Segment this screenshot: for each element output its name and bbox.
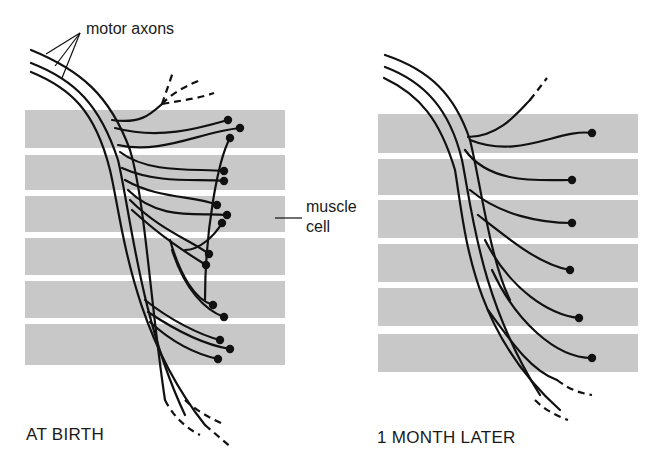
synapse-terminal (220, 167, 228, 175)
synapse-terminal (214, 355, 222, 363)
synapse-terminal (218, 219, 226, 227)
axon-continuation-dashed (162, 93, 214, 104)
pointer-line (55, 33, 80, 66)
axon-continuation-dashed (165, 400, 200, 435)
label-cell: cell (306, 218, 330, 236)
label-muscle: muscle (306, 198, 357, 216)
label-motor-axons: motor axons (86, 20, 174, 38)
muscle-cell-band (378, 334, 638, 372)
neuromuscular-diagram (0, 0, 664, 474)
axon-continuation-dashed (205, 425, 232, 448)
muscle-cell-band (25, 238, 285, 275)
synapse-terminal (223, 211, 231, 219)
muscle-cell-band (378, 200, 638, 238)
synapse-terminal (220, 177, 228, 185)
pointer-line (46, 33, 80, 54)
synapse-terminal (588, 354, 596, 362)
muscle-cell-band (25, 110, 285, 148)
caption-at-birth: AT BIRTH (26, 425, 104, 445)
synapse-terminal (213, 201, 221, 209)
axon-continuation-dashed (162, 80, 200, 104)
axon-continuation-dashed (185, 400, 225, 425)
muscle-cell-band (25, 155, 285, 190)
synapse-terminal (575, 314, 583, 322)
synapse-terminal (568, 176, 576, 184)
synapse-terminal (236, 124, 244, 132)
synapse-terminal (209, 301, 217, 309)
muscle-cell-band (25, 281, 285, 318)
synapse-terminal (220, 313, 228, 321)
synapse-terminal (566, 266, 574, 274)
muscle-cell-band (25, 196, 285, 232)
axon-continuation-dashed (557, 380, 592, 395)
synapse-terminal (202, 261, 210, 269)
axon-continuation-dashed (162, 72, 173, 104)
axon-continuation-dashed (530, 78, 547, 100)
synapse-terminal (205, 250, 213, 258)
synapse-terminal (226, 345, 234, 353)
synapse-terminal (588, 129, 596, 137)
panel-one-month-later (378, 55, 638, 420)
caption-one-month-later: 1 MONTH LATER (377, 428, 516, 448)
synapse-terminal (226, 134, 234, 142)
synapse-terminal (224, 116, 232, 124)
synapse-terminal (216, 336, 224, 344)
synapse-terminal (568, 219, 576, 227)
panel-at-birth (25, 50, 285, 448)
